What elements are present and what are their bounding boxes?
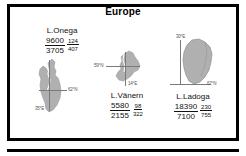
lake-panel-ladoga: 30°E 62°N L.Ladoga 18390 7100 230 755	[158, 34, 228, 124]
lake-area-denominator-vanern: 2155	[110, 111, 130, 120]
lake-panel-vanern: 59°N 14°E L.Vänern 5580 2155 98 322	[94, 50, 160, 125]
lake-axis-horizontal-vanern	[106, 66, 140, 67]
lake-name-onega: L.Onega	[26, 26, 98, 35]
lake-tick-vertical-vanern: 14°E	[128, 81, 137, 86]
lake-depth-fraction-vanern: 98 322	[132, 102, 144, 117]
lake-stats-ladoga: 18390 7100 230 755	[158, 103, 228, 121]
lake-stats-vanern: 5580 2155 98 322	[94, 102, 160, 120]
lake-area-fraction-onega: 9600 3705	[45, 37, 65, 55]
lake-tick-horizontal-ladoga: 62°N	[207, 81, 216, 86]
lake-depth-numerator-vanern: 98	[134, 103, 143, 110]
lake-tick-horizontal-onega: 62°N	[68, 87, 77, 92]
lake-axis-vertical-onega	[49, 60, 50, 111]
lake-panel-onega: L.Onega 9600 3705 124 407 62°N 35°E	[26, 26, 98, 121]
lake-area-fraction-vanern: 5580 2155	[110, 102, 130, 120]
figure-title: Europe	[0, 6, 246, 17]
lake-depth-fraction-ladoga: 230 755	[200, 103, 212, 118]
lake-tick-vertical-onega: 35°E	[35, 106, 44, 111]
lake-tick-vertical-ladoga: 30°E	[176, 34, 185, 39]
lake-area-denominator-ladoga: 7100	[176, 112, 196, 121]
lake-area-numerator-vanern: 5580	[110, 102, 130, 111]
lake-map-vanern: 59°N 14°E	[94, 50, 160, 90]
lake-map-onega: 62°N 35°E	[26, 58, 98, 113]
lake-area-numerator-ladoga: 18390	[174, 103, 198, 112]
lake-stats-onega: 9600 3705 124 407	[26, 37, 98, 55]
lake-depth-numerator-onega: 124	[67, 38, 79, 45]
lake-axis-vertical-vanern	[125, 52, 126, 86]
bottom-divider-rule	[7, 149, 239, 152]
lake-map-ladoga: 30°E 62°N	[158, 34, 228, 91]
lake-axis-horizontal-onega	[39, 90, 67, 91]
lake-silhouette-onega	[36, 58, 70, 113]
lake-axis-horizontal-ladoga	[170, 84, 210, 85]
lake-name-ladoga: L.Ladoga	[158, 92, 228, 101]
lake-depth-denominator-ladoga: 755	[200, 111, 212, 118]
lake-depth-numerator-ladoga: 230	[200, 104, 212, 111]
lake-area-denominator-onega: 3705	[45, 46, 65, 55]
lake-depth-denominator-vanern: 322	[132, 110, 144, 117]
lake-area-fraction-ladoga: 18390 7100	[174, 103, 198, 121]
lake-axis-vertical-ladoga	[180, 40, 181, 85]
lake-depth-denominator-onega: 407	[67, 45, 79, 52]
lake-area-numerator-onega: 9600	[45, 37, 65, 46]
lake-tick-horizontal-vanern: 59°N	[94, 63, 103, 68]
lake-depth-fraction-onega: 124 407	[67, 37, 79, 52]
lake-name-vanern: L.Vänern	[94, 91, 160, 100]
